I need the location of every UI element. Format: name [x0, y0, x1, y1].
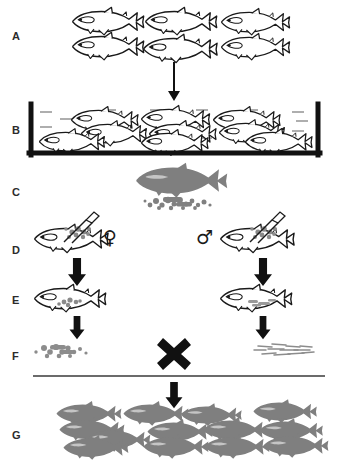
fish-outline: [222, 33, 290, 59]
fish-gray-offspring: [144, 434, 209, 459]
panel-g-fish-group: [57, 399, 329, 460]
arrow-e-to-f-male: [256, 316, 271, 339]
arrow-e-to-f-female: [70, 316, 85, 339]
female-sex-symbol: ♀: [103, 228, 117, 247]
arrow-d-to-e-female: [68, 258, 86, 286]
panel-e-male-group: [221, 284, 292, 312]
fish-outline-injected-male: [221, 224, 294, 253]
fish-outline-surrogate-male: [221, 284, 292, 312]
arrow-a-to-b: [168, 62, 180, 101]
panel-e-female-group: [35, 284, 106, 312]
fish-outline: [144, 34, 217, 63]
cross-fertilization-symbol: [157, 338, 191, 370]
arrow-f-to-g: [166, 382, 183, 408]
panel-d-male-group: [221, 212, 294, 253]
panel-b-fish-group: [40, 105, 312, 155]
figure-artwork: [0, 0, 349, 471]
fish-gray-offspring: [254, 399, 317, 423]
germ-cell-cluster: [144, 197, 212, 210]
male-sex-symbol: ♂: [196, 228, 213, 247]
sperm-cluster-panel-f: [254, 344, 314, 355]
fish-gray-offspring: [205, 434, 270, 459]
arrow-d-to-e-male: [254, 258, 272, 286]
figure-root: A B C D E F G: [0, 0, 349, 471]
panel-a-fish-group: [73, 7, 290, 62]
fish-outline: [73, 7, 144, 35]
fish-outline: [146, 7, 217, 35]
fish-gray-donor: [136, 163, 227, 198]
panel-d-female-group: [35, 212, 108, 253]
fish-outline-injected-female: [35, 224, 108, 253]
fish-outline: [222, 8, 290, 34]
egg-cluster-panel-f: [34, 344, 87, 358]
holding-tank: [29, 104, 320, 155]
fish-outline: [73, 32, 144, 60]
panel-c-group: [136, 163, 227, 210]
